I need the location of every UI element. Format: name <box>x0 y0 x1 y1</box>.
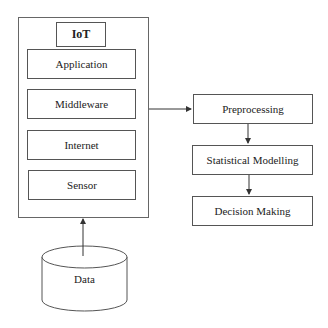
data-source-label: Data <box>42 273 127 285</box>
